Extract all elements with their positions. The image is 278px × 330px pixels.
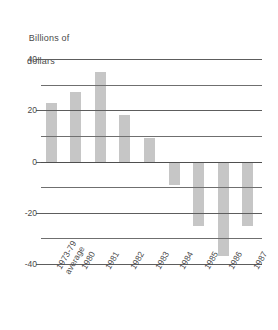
gridline-0 — [41, 162, 262, 163]
bar — [70, 92, 81, 161]
y-axis-caption-line1: Billions of — [29, 33, 70, 43]
bar — [193, 162, 204, 226]
gridline-30 — [41, 85, 262, 86]
plot-area: 40200-20-40 — [41, 59, 262, 264]
bar — [218, 162, 229, 257]
bar — [46, 103, 57, 162]
gridline-40 — [41, 59, 262, 60]
bar — [144, 138, 155, 161]
y-tick-label--20: -20 — [25, 208, 37, 218]
gridline--30 — [41, 238, 262, 239]
y-tick-label-40: 40 — [28, 54, 37, 64]
bar — [242, 162, 253, 226]
bar — [119, 115, 130, 161]
y-tick-label--40: -40 — [25, 259, 37, 269]
gridline--20 — [41, 213, 262, 214]
bar-chart: Billions of dollars 40200-20-40 1973-79a… — [0, 0, 278, 330]
bar — [169, 162, 180, 185]
y-tick-label-0: 0 — [32, 157, 37, 167]
x-axis-labels: 1973-79average19801981198219831984198519… — [41, 266, 262, 330]
gridline-20 — [41, 110, 262, 111]
y-tick-label-20: 20 — [28, 105, 37, 115]
gridline-10 — [41, 136, 262, 137]
gridline--10 — [41, 187, 262, 188]
